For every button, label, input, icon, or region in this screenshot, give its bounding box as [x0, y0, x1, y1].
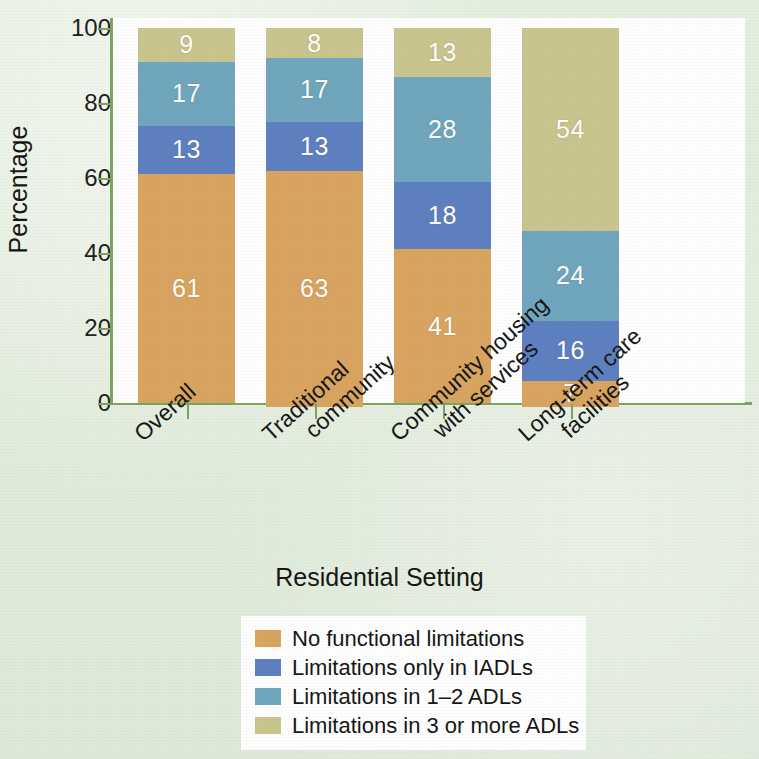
bar-segment[interactable]: 13	[394, 28, 491, 77]
bar-segment-value-label: 17	[300, 75, 329, 104]
legend-swatch-icon	[255, 659, 281, 676]
legend-item-1[interactable]: No functional limitations	[255, 624, 576, 653]
legend: No functional limitationsLimitations onl…	[241, 616, 586, 750]
bar-segment[interactable]: 54	[522, 28, 619, 231]
legend-swatch-icon	[255, 688, 281, 705]
legend-rows: No functional limitationsLimitations onl…	[255, 624, 576, 740]
bar-segment-value-label: 28	[428, 115, 457, 144]
bar-segment-value-label: 24	[556, 261, 585, 290]
bar-segment[interactable]: 8	[266, 28, 363, 58]
x-axis-title: Residential Setting	[0, 563, 759, 592]
plot-area: 91713618171363132818415424167	[113, 18, 745, 403]
bar-segment-value-label: 13	[300, 132, 329, 161]
bar-segment-value-label: 61	[172, 274, 201, 303]
bar-segment-value-label: 13	[428, 38, 457, 67]
bar-1[interactable]: 9171361	[138, 28, 235, 403]
figure-root: Percentage 100806040200 9171361817136313…	[0, 0, 759, 759]
bar-segment[interactable]: 13	[138, 126, 235, 175]
bar-segment[interactable]: 9	[138, 28, 235, 62]
bar-segment-value-label: 9	[179, 30, 193, 59]
y-axis-title: Percentage	[4, 80, 33, 300]
bar-segment-value-label: 54	[556, 115, 585, 144]
bar-segment-value-label: 16	[556, 336, 585, 365]
legend-item-label: No functional limitations	[292, 626, 524, 652]
bar-segment-value-label: 8	[307, 29, 321, 58]
bar-segment[interactable]: 18	[394, 182, 491, 250]
bar-segment-value-label: 18	[428, 201, 457, 230]
bar-segment-value-label: 63	[300, 274, 329, 303]
legend-item-label: Limitations in 1–2 ADLs	[292, 684, 522, 710]
legend-swatch-icon	[255, 717, 281, 734]
legend-item-label: Limitations only in IADLs	[292, 655, 533, 681]
bar-segment[interactable]: 61	[138, 174, 235, 403]
bar-segment[interactable]: 17	[266, 58, 363, 122]
legend-swatch-icon	[255, 630, 281, 647]
bar-segment[interactable]: 17	[138, 62, 235, 126]
bar-segment-value-label: 17	[172, 79, 201, 108]
bar-segment-value-label: 13	[172, 135, 201, 164]
bar-segment[interactable]: 28	[394, 77, 491, 182]
legend-item-3[interactable]: Limitations in 1–2 ADLs	[255, 682, 576, 711]
legend-item-2[interactable]: Limitations only in IADLs	[255, 653, 576, 682]
bar-segment-value-label: 41	[428, 312, 457, 341]
bar-segment[interactable]: 13	[266, 122, 363, 171]
legend-item-label: Limitations in 3 or more ADLs	[292, 713, 579, 739]
legend-item-4[interactable]: Limitations in 3 or more ADLs	[255, 711, 576, 740]
